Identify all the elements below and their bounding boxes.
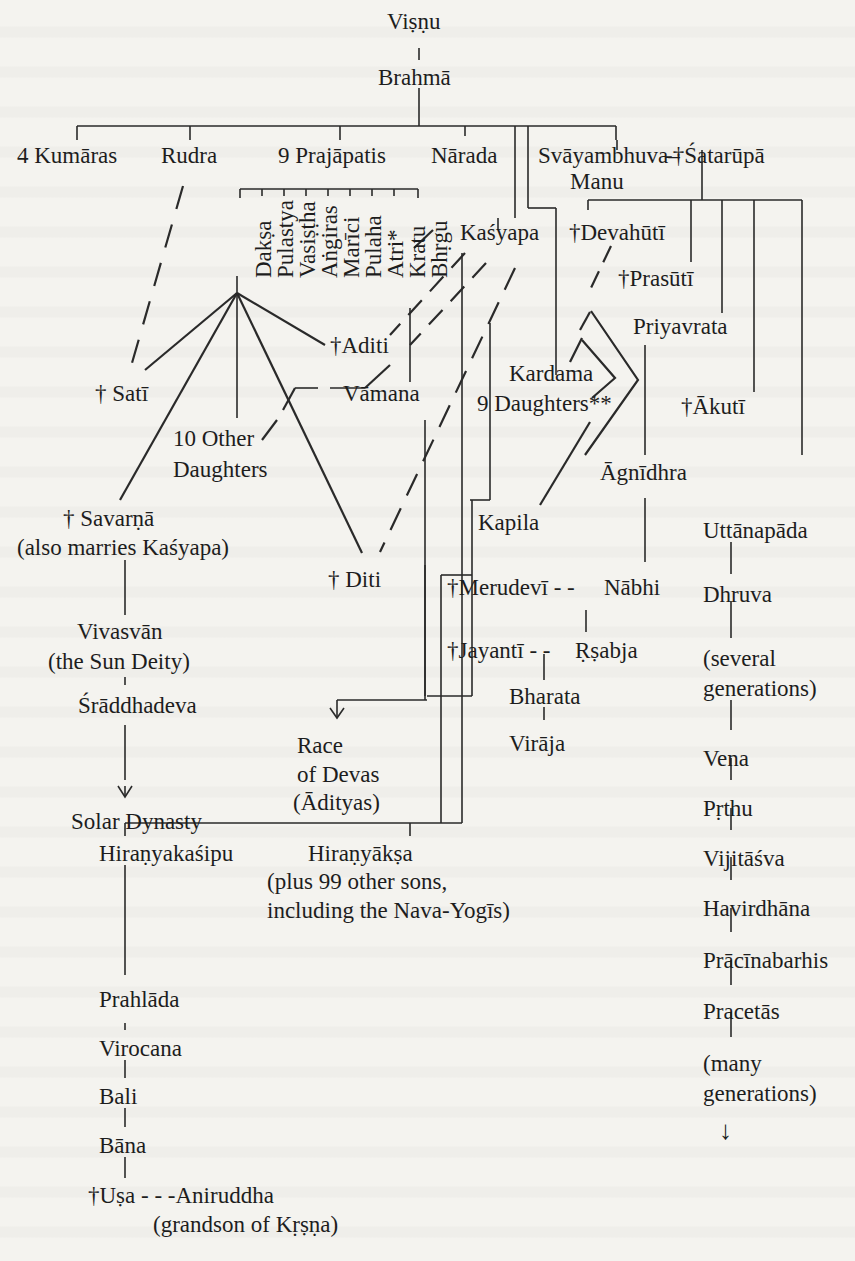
node-vena: Vena: [703, 745, 749, 772]
node-kratu: Kratu: [407, 226, 429, 278]
node-agnidhra: Āgnīdhra: [600, 459, 687, 486]
node-vivasvan: Vivasvān: [77, 618, 163, 645]
node-virocana: Virocana: [99, 1035, 182, 1062]
node-hiranyaksa-note-2: including the Nava-Yogīs): [267, 897, 510, 924]
node-bana: Bāna: [99, 1132, 146, 1159]
node-prthu: Pṛthu: [703, 795, 753, 822]
node-usa-aniruddha: †Uṣa - - -Aniruddha: [88, 1182, 274, 1209]
node-vamana: Vāmana: [343, 380, 420, 407]
node-kapila: Kapila: [478, 509, 539, 536]
node-pracetas: Pracetās: [703, 998, 780, 1025]
node-marici: Marīci: [341, 217, 363, 278]
node-solar-dynasty: Solar Dynasty: [71, 808, 202, 835]
node-uttanapada: Uttānapāda: [703, 517, 808, 544]
node-bali: Bali: [99, 1083, 137, 1110]
node-viraja: Virāja: [509, 730, 565, 757]
node-pulaha: Pulaha: [363, 215, 385, 278]
node-other-daughters-1: 10 Other: [173, 425, 254, 452]
node-kumaras: 4 Kumāras: [17, 142, 117, 169]
node-race-2: of Devas: [297, 761, 379, 788]
node-race-3: (Ādityas): [293, 789, 380, 816]
node-narada: Nārada: [431, 142, 497, 169]
node-several-1: (several: [703, 645, 776, 672]
node-vivasvan-note: (the Sun Deity): [48, 648, 190, 675]
node-dhruva: Dhruva: [703, 581, 772, 608]
node-atri: Atri*: [385, 229, 407, 278]
node-manu: Manu: [570, 168, 624, 195]
node-race-1: Race: [297, 732, 343, 759]
node-vijitasva: Vijitāśva: [703, 845, 785, 872]
node-rsabha: Ṛṣabja: [575, 637, 638, 664]
node-prasuti: †Prasūtī: [618, 265, 693, 292]
node-hiranyaksa: Hiraṇyākṣa: [308, 840, 413, 867]
arrow-down-icon: ↓: [719, 1117, 732, 1144]
node-sati: † Satī: [95, 380, 148, 407]
node-brahma: Brahmā: [378, 64, 451, 91]
node-many-1: (many: [703, 1050, 762, 1077]
node-bhrgu: Bhṛgu: [429, 221, 451, 279]
node-havirdhana: Havirdhāna: [703, 895, 810, 922]
node-rudra: Rudra: [161, 142, 217, 169]
node-nine-daughters: 9 Daughters**: [477, 390, 612, 417]
node-visnu: Viṣṇu: [387, 8, 441, 35]
node-prahlada: Prahlāda: [99, 986, 179, 1013]
node-savarna: † Savarṇā: [63, 505, 154, 532]
node-svayambhuva: Svāyambhuva–: [538, 142, 680, 169]
node-aditi: †Aditi: [330, 332, 389, 359]
node-devahuti: †Devahūtī: [569, 219, 665, 246]
node-hiranyaksa-note-1: (plus 99 other sons,: [267, 868, 447, 895]
node-prajapatis: 9 Prajāpatis: [278, 142, 386, 169]
node-daksa: Dakṣa: [253, 221, 275, 278]
node-savarna-note: (also marries Kaśyapa): [17, 534, 229, 561]
node-several-2: generations): [703, 675, 817, 702]
node-kasyapa: Kaśyapa: [460, 219, 539, 246]
node-merudevi: †Merudevī - -: [447, 574, 575, 601]
node-jayanti: †Jayantī - -: [447, 637, 550, 664]
node-krsna-note: (grandson of Kṛṣṇa): [153, 1211, 338, 1238]
node-many-2: generations): [703, 1080, 817, 1107]
node-satarupa: -†Śatarūpā: [665, 142, 765, 169]
node-hiranyakasipu: Hiraṇyakaśipu: [99, 840, 233, 867]
node-other-daughters-2: Daughters: [173, 456, 268, 483]
node-pracinabarhis: Prācīnabarhis: [703, 947, 828, 974]
node-angiras: Aṅgiras: [319, 205, 341, 278]
node-vasistha: Vasiṣṭha: [297, 201, 319, 278]
node-akuti: †Ākutī: [681, 393, 745, 420]
node-bharata: Bharata: [509, 683, 581, 710]
node-kardama: Kardama: [509, 360, 593, 387]
node-sraddhadeva: Śrāddhadeva: [78, 692, 197, 719]
node-nabhi: Nābhi: [604, 574, 660, 601]
node-priyavrata: Priyavrata: [633, 313, 728, 340]
node-diti: † Diti: [328, 566, 381, 593]
node-pulastya: Pulastya: [275, 200, 297, 278]
